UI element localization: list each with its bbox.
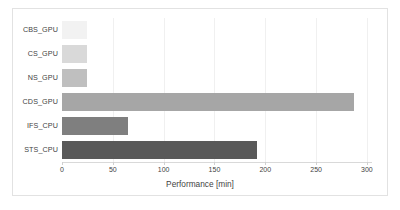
plot-wrapper: CBS_GPUCS_GPUNS_GPUCDS_GPUIFS_CPUSTS_CPU… xyxy=(13,9,387,195)
bar xyxy=(62,69,87,87)
category-label: NS_GPU xyxy=(28,66,58,90)
x-tick-label: 300 xyxy=(352,166,382,173)
x-tick-mark xyxy=(265,162,266,165)
bar-row xyxy=(62,66,372,90)
category-label: CS_GPU xyxy=(28,42,58,66)
x-tick-mark xyxy=(62,162,63,165)
x-axis-line xyxy=(62,162,372,163)
bar xyxy=(62,21,87,39)
category-axis-labels: CBS_GPUCS_GPUNS_GPUCDS_GPUIFS_CPUSTS_CPU xyxy=(13,18,62,162)
category-label: CDS_GPU xyxy=(23,90,58,114)
bar-row xyxy=(62,42,372,66)
category-label: IFS_CPU xyxy=(27,114,58,138)
x-tick-label: 50 xyxy=(98,166,128,173)
x-tick-mark xyxy=(316,162,317,165)
bar-row xyxy=(62,114,372,138)
x-tick-label: 200 xyxy=(250,166,280,173)
category-label: CBS_GPU xyxy=(23,18,58,42)
category-label: STS_CPU xyxy=(24,138,58,162)
x-tick-label: 150 xyxy=(199,166,229,173)
x-tick-label: 250 xyxy=(301,166,331,173)
bar-row xyxy=(62,90,372,114)
bar xyxy=(62,45,87,63)
x-tick-mark xyxy=(214,162,215,165)
x-tick-mark xyxy=(367,162,368,165)
chart-figure: CBS_GPUCS_GPUNS_GPUCDS_GPUIFS_CPUSTS_CPU… xyxy=(12,8,388,196)
bar-row xyxy=(62,18,372,42)
x-tick-mark xyxy=(113,162,114,165)
bar xyxy=(62,93,354,111)
x-axis-title: Performance [min] xyxy=(13,179,387,189)
bar xyxy=(62,117,128,135)
bar-row xyxy=(62,138,372,162)
plot-area xyxy=(62,18,372,162)
x-tick-mark xyxy=(164,162,165,165)
x-tick-label: 100 xyxy=(149,166,179,173)
bar xyxy=(62,141,257,159)
x-tick-label: 0 xyxy=(47,166,77,173)
